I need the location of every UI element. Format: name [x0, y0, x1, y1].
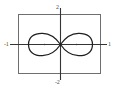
lemniscate-figure: 2 -2 -1 1: [0, 0, 117, 90]
plot-canvas: [0, 0, 117, 90]
left-lobe-center-dot: [44, 44, 46, 46]
x-axis-tick-label-left: -1: [4, 41, 9, 47]
right-lobe-center-dot: [76, 44, 78, 46]
y-axis-tick-label-bottom: -2: [55, 79, 60, 85]
x-axis-tick-label-right: 1: [108, 41, 111, 47]
y-axis-tick-label-top: 2: [56, 4, 59, 10]
